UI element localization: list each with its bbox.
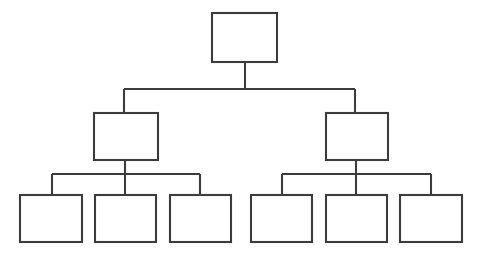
- diagram-canvas: [0, 0, 480, 258]
- node-box-mid-2[interactable]: [326, 113, 388, 160]
- node-root[interactable]: [212, 13, 277, 62]
- node-box-leaf-1[interactable]: [20, 195, 82, 242]
- tree-diagram: [0, 0, 480, 258]
- node-box-leaf-5[interactable]: [326, 195, 387, 242]
- node-leaf-1[interactable]: [20, 195, 82, 242]
- node-mid-2[interactable]: [326, 113, 388, 160]
- node-leaf-4[interactable]: [251, 195, 312, 242]
- node-box-leaf-3[interactable]: [170, 195, 231, 242]
- node-leaf-2[interactable]: [95, 195, 156, 242]
- node-box-root[interactable]: [212, 13, 277, 62]
- node-box-leaf-6[interactable]: [400, 195, 462, 242]
- node-mid-1[interactable]: [94, 113, 158, 160]
- node-leaf-6[interactable]: [400, 195, 462, 242]
- node-leaf-5[interactable]: [326, 195, 387, 242]
- node-leaf-3[interactable]: [170, 195, 231, 242]
- node-box-mid-1[interactable]: [94, 113, 158, 160]
- node-box-leaf-2[interactable]: [95, 195, 156, 242]
- node-group: [20, 13, 462, 242]
- node-box-leaf-4[interactable]: [251, 195, 312, 242]
